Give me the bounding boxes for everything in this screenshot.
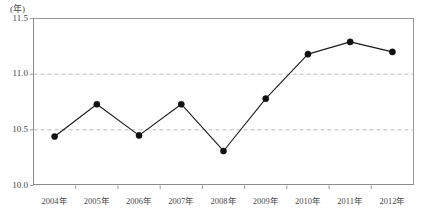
data-point — [178, 101, 184, 107]
data-point — [136, 132, 142, 138]
x-axis-ticks-group — [76, 186, 372, 190]
data-point — [94, 101, 100, 107]
data-point — [347, 39, 353, 45]
x-tick-label: 2011年 — [337, 194, 363, 206]
data-point — [263, 96, 269, 102]
y-tick-label: 10.0 — [2, 180, 28, 190]
data-line — [55, 42, 393, 151]
x-tick-label: 2010年 — [295, 194, 321, 206]
y-tick-label: 11.5 — [2, 13, 28, 23]
data-point — [220, 148, 226, 154]
y-tick-label: 11.0 — [2, 68, 28, 78]
x-tick-label: 2012年 — [379, 194, 405, 206]
line-chart: (年) 10.010.511.011.5 2004年2005年2006年2007… — [0, 0, 425, 223]
x-tick-label: 2009年 — [253, 194, 279, 206]
x-tick-label: 2008年 — [211, 194, 237, 206]
x-tick-label: 2006年 — [126, 194, 152, 206]
x-tick-label: 2004年 — [42, 194, 68, 206]
gridlines-group — [34, 74, 414, 130]
y-axis-ticks-group — [30, 19, 34, 186]
data-points-group — [52, 39, 396, 154]
y-tick-label: 10.5 — [2, 124, 28, 134]
data-point — [305, 51, 311, 57]
x-tick-label: 2005年 — [84, 194, 110, 206]
x-tick-label: 2007年 — [168, 194, 194, 206]
data-point — [389, 49, 395, 55]
data-point — [52, 133, 58, 139]
chart-canvas — [0, 0, 425, 223]
